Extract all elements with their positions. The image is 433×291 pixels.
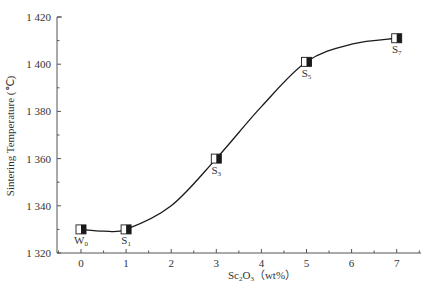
x-tick-label: 2 (168, 257, 174, 269)
y-axis-title: Sintering Temperature (℃) (4, 75, 17, 196)
x-tick-label: 3 (214, 257, 220, 269)
x-tick-label: 1 (123, 257, 129, 269)
data-point-marker (121, 225, 131, 234)
data-point-marker (76, 225, 86, 234)
point-labels: W0S1S3S5S7 (74, 43, 402, 248)
x-tick-label: 7 (394, 257, 400, 269)
sintering-temperature-chart: 1 3201 3401 3601 3801 4001 420 01234567 … (0, 0, 433, 291)
point-label: S3 (211, 164, 221, 178)
point-label: W0 (74, 234, 88, 248)
x-tick-label: 6 (349, 257, 355, 269)
y-tick-label: 1 400 (26, 58, 51, 70)
y-tick-label: 1 320 (26, 247, 51, 259)
x-tick-label: 5 (304, 257, 310, 269)
data-curve (81, 38, 397, 232)
point-label: S7 (392, 43, 402, 57)
data-point-marker (211, 154, 221, 163)
point-label: S1 (121, 234, 131, 248)
point-label: S5 (302, 67, 312, 81)
y-tick-label: 1 380 (26, 105, 51, 117)
data-markers (76, 34, 402, 234)
y-axis-ticks: 1 3201 3401 3601 3801 4001 420 (26, 11, 61, 259)
y-tick-label: 1 420 (26, 11, 51, 23)
x-axis-title: Sc2O3（wt%） (228, 269, 296, 283)
x-axis-ticks: 01234567 (58, 249, 419, 269)
x-tick-label: 4 (259, 257, 265, 269)
y-tick-label: 1 360 (26, 153, 51, 165)
axes (57, 17, 421, 253)
x-tick-label: 0 (78, 257, 84, 269)
data-point-marker (302, 57, 312, 66)
y-tick-label: 1 340 (26, 200, 51, 212)
data-point-marker (392, 34, 402, 43)
